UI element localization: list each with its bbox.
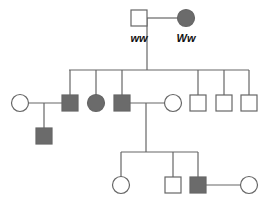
gen3-affected-male: [190, 177, 206, 193]
gen3-unaffected-female: [113, 177, 130, 194]
gen3-affected-male-left: [36, 128, 52, 144]
pedigree-diagram: ww Ww: [0, 0, 265, 205]
gen2-unaffected-male-2: [216, 95, 232, 111]
gen3-unaffected-male: [165, 177, 181, 193]
father-genotype-label: ww: [130, 32, 149, 44]
gen2-affected-male-2: [114, 95, 130, 111]
gen2-unaffected-male-1: [190, 95, 206, 111]
gen2-affected-female: [88, 95, 105, 112]
gen2-affected-male-1: [62, 95, 78, 111]
gen1-father-unaffected-male: [131, 10, 147, 26]
gen2-unaffected-male-3: [241, 95, 257, 111]
mother-genotype-label: Ww: [177, 32, 197, 44]
gen2-spouse-unaffected-female: [12, 95, 29, 112]
gen2-spouse-unaffected-female-2: [165, 95, 182, 112]
gen3-spouse-unaffected-female: [241, 177, 258, 194]
gen1-mother-affected-female: [178, 10, 195, 27]
